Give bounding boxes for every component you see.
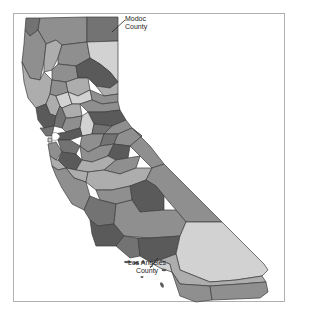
la-label-line2: County (120, 267, 174, 275)
modoc-label-line1: Modoc (125, 15, 147, 23)
island-5 (159, 282, 165, 289)
county-modoc[interactable] (87, 17, 118, 42)
modoc-label-line2: County (125, 23, 147, 31)
modoc-county-label: Modoc County (125, 15, 147, 31)
la-county-label: Los Angeles County (120, 259, 174, 275)
la-label-line1: Los Angeles (120, 259, 174, 267)
island-6 (141, 276, 144, 278)
county-san-francisco[interactable] (48, 138, 52, 142)
county-siskiyou[interactable] (38, 17, 87, 45)
county-san-bernardino[interactable] (176, 222, 268, 282)
